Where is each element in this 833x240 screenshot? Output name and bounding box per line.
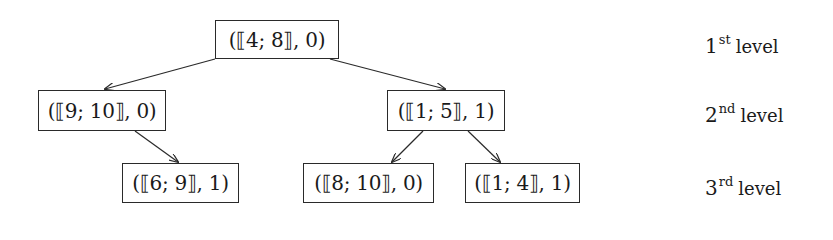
edge-l2b-l3b: [392, 131, 423, 162]
edge-root-l2a: [105, 59, 215, 89]
node-label: (⟦8; 10⟧, 0): [314, 171, 423, 195]
level-label-1: 1stlevel: [705, 32, 779, 58]
edge-l2a-l3a: [135, 131, 178, 162]
node-label: (⟦6; 9⟧, 1): [132, 171, 228, 195]
edge-l2b-l3c: [468, 131, 500, 162]
level-label-3: 3rdlevel: [705, 174, 781, 200]
edge-root-l2b: [330, 59, 445, 89]
tree-node-l3a: (⟦6; 9⟧, 1): [122, 163, 239, 203]
node-label: (⟦9; 10⟧, 0): [48, 99, 157, 123]
tree-node-root: (⟦4; 8⟧, 0): [215, 20, 339, 59]
tree-node-l2b: (⟦1; 5⟧, 1): [387, 90, 505, 131]
tree-node-l2a: (⟦9; 10⟧, 0): [38, 90, 166, 131]
node-label: (⟦1; 4⟧, 1): [474, 171, 570, 195]
node-label: (⟦1; 5⟧, 1): [398, 99, 494, 123]
tree-node-l3b: (⟦8; 10⟧, 0): [303, 163, 434, 203]
node-label: (⟦4; 8⟧, 0): [229, 28, 325, 52]
tree-node-l3c: (⟦1; 4⟧, 1): [465, 163, 580, 203]
level-label-2: 2ndlevel: [705, 101, 783, 127]
